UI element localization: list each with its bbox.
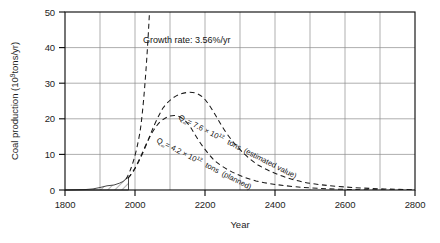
- svg-text:Coal production (109tons/yr): Coal production (109tons/yr): [9, 42, 21, 160]
- growth-rate-annotation: Growth rate: 3.56%/yr: [143, 35, 231, 45]
- y-axis-title-prefix: Coal production (10: [9, 77, 20, 160]
- y-axis-ticks: [59, 12, 65, 190]
- y-tick-label-10: 10: [45, 149, 55, 160]
- x-tick-label-2400: 2400: [265, 199, 286, 210]
- x-tick-label-2800: 2800: [405, 199, 426, 210]
- x-axis-title: Year: [230, 219, 249, 230]
- y-axis-title-suffix: tons/yr): [9, 42, 20, 74]
- y-tick-label-30: 30: [45, 78, 55, 89]
- y-tick-label-0: 0: [50, 185, 55, 196]
- x-axis-ticks: [65, 190, 415, 196]
- y-axis-title: Coal production (109tons/yr): [9, 42, 21, 160]
- coal-production-chart: 50 40 30 20 10 0 1800 2000 2200 2400 260…: [0, 0, 440, 243]
- x-tick-label-2600: 2600: [335, 199, 356, 210]
- x-tick-label-2200: 2200: [195, 199, 216, 210]
- x-tick-label-1800: 1800: [55, 199, 76, 210]
- y-tick-label-20: 20: [45, 113, 55, 124]
- y-tick-label-50: 50: [45, 7, 55, 18]
- chart-svg: 50 40 30 20 10 0 1800 2000 2200 2400 260…: [0, 0, 440, 243]
- x-tick-label-2000: 2000: [125, 199, 146, 210]
- y-tick-label-40: 40: [45, 42, 55, 53]
